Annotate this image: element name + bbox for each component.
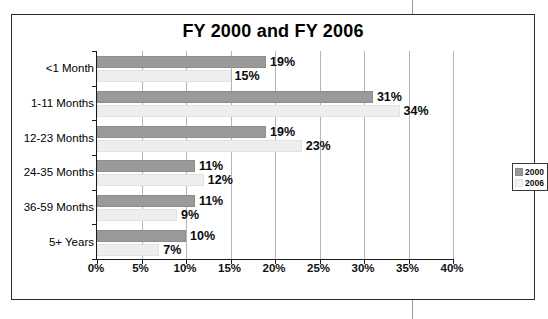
x-axis-tick-label: 0% <box>88 262 105 274</box>
y-axis-tick <box>92 155 97 156</box>
bar-2000-3 <box>97 160 195 172</box>
y-axis-tick <box>92 190 97 191</box>
x-axis-tick-label: 5% <box>132 262 149 274</box>
bar-2000-0 <box>97 56 266 68</box>
bar-2006-3 <box>97 174 204 186</box>
gridline <box>320 51 321 259</box>
plot-area: 19%15%31%34%19%23%11%12%11%9%10%7% <box>96 51 453 260</box>
bar-2006-2 <box>97 140 302 152</box>
gridline <box>409 51 410 259</box>
bar-value-label: 11% <box>199 194 223 208</box>
bar-2000-5 <box>97 230 186 242</box>
gridline <box>364 51 365 259</box>
bar-value-label: 10% <box>190 229 215 243</box>
x-axis-tick-label: 10% <box>173 262 196 274</box>
y-axis-tick <box>92 120 97 121</box>
bar-value-label: 7% <box>163 243 181 257</box>
gridline <box>231 51 232 259</box>
category-label: <1 Month <box>12 62 94 74</box>
legend-label-2006: 2006 <box>525 178 544 188</box>
bar-2000-1 <box>97 91 373 103</box>
y-axis-tick <box>92 51 97 52</box>
x-axis-tick-label: 35% <box>396 262 419 274</box>
scan-artifact-line-bottom <box>412 300 413 319</box>
legend-swatch-2000-icon <box>515 168 523 176</box>
bar-2000-4 <box>97 195 195 207</box>
x-axis-tick-label: 25% <box>307 262 330 274</box>
chart-legend: 2000 2006 <box>512 163 548 191</box>
category-label: 1-11 Months <box>12 97 94 109</box>
category-label: 12-23 Months <box>12 132 94 144</box>
category-label: 36-59 Months <box>12 201 94 213</box>
bar-value-label: 15% <box>235 69 260 83</box>
bar-2006-4 <box>97 209 177 221</box>
x-axis-tick-label: 15% <box>218 262 241 274</box>
category-axis-labels: <1 Month1-11 Months12-23 Months24-35 Mon… <box>12 51 94 259</box>
x-axis-tick-label: 20% <box>262 262 285 274</box>
bar-2006-1 <box>97 105 400 117</box>
legend-item-2000: 2000 <box>515 166 544 177</box>
legend-label-2000: 2000 <box>525 167 544 177</box>
y-axis-tick <box>92 86 97 87</box>
bar-2000-2 <box>97 126 266 138</box>
x-axis-tick-label: 40% <box>440 262 463 274</box>
chart-frame: FY 2000 and FY 2006 <1 Month1-11 Months1… <box>11 14 535 300</box>
bar-2006-0 <box>97 70 231 82</box>
bar-value-label: 34% <box>404 104 429 118</box>
bar-value-label: 19% <box>270 125 295 139</box>
y-axis-tick <box>92 259 97 260</box>
plot-wrapper: 19%15%31%34%19%23%11%12%11%9%10%7% 0%5%1… <box>96 51 453 281</box>
x-axis-tick-label: 30% <box>351 262 374 274</box>
bar-value-label: 9% <box>181 208 199 222</box>
bar-value-label: 12% <box>208 173 233 187</box>
y-axis-tick <box>92 224 97 225</box>
legend-swatch-2006-icon <box>515 179 523 187</box>
bar-2006-5 <box>97 244 159 256</box>
bar-value-label: 11% <box>199 159 223 173</box>
gridline <box>453 51 454 259</box>
bar-value-label: 19% <box>270 55 295 69</box>
chart-title: FY 2000 and FY 2006 <box>12 21 534 42</box>
legend-item-2006: 2006 <box>515 177 544 188</box>
category-label: 24-35 Months <box>12 166 94 178</box>
category-label: 5+ Years <box>12 236 94 248</box>
bar-value-label: 31% <box>377 90 402 104</box>
bar-value-label: 23% <box>306 139 331 153</box>
gridline <box>275 51 276 259</box>
